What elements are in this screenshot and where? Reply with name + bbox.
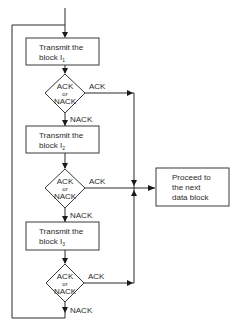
arrow-right-icon: [127, 90, 133, 96]
proceed-line1: Proceed to: [172, 173, 211, 182]
arrow-down-icon: [62, 68, 68, 74]
ack-label-1: ACK: [89, 82, 106, 91]
svg-text:block I3: block I3: [39, 237, 65, 247]
proceed-line2: the next: [172, 183, 201, 192]
nack-label-3: NACK: [70, 306, 93, 315]
arrow-down-icon: [62, 32, 68, 38]
ack-label-3: ACK: [88, 272, 105, 281]
decision-1-bottom: NACK: [54, 97, 77, 106]
decision-3-bottom: NACK: [54, 287, 77, 296]
decision-2-bottom: NACK: [54, 192, 77, 201]
transmit-block-3-line2: block I: [39, 237, 62, 246]
transmit-block-3-line1: Transmit the: [39, 227, 84, 236]
decision-2-top: ACK: [57, 177, 74, 186]
flowchart: Transmit the block I1 ACK or NACK ACK NA…: [0, 0, 239, 329]
arrow-down-icon: [62, 216, 68, 222]
transmit-block-2-line1: Transmit the: [39, 131, 84, 140]
arrow-down-icon: [131, 180, 137, 186]
arrow-down-icon: [62, 163, 68, 169]
svg-text:block I1: block I1: [39, 53, 65, 63]
transmit-block-2-subscript: 2: [62, 145, 65, 151]
transmit-block-3-subscript: 3: [62, 241, 65, 247]
ack-label-2: ACK: [89, 177, 106, 186]
transmit-block-2-line2: block I: [39, 141, 62, 150]
decision-1-top: ACK: [57, 82, 74, 91]
proceed-line3: data block: [172, 193, 209, 202]
transmit-block-1-line2: block I: [39, 53, 62, 62]
transmit-block-1-subscript: 1: [62, 57, 65, 63]
arrow-right-icon: [148, 185, 155, 191]
arrow-down-icon: [62, 120, 68, 126]
svg-text:block I2: block I2: [39, 141, 65, 151]
arrow-down-icon: [62, 258, 68, 264]
transmit-block-1-line1: Transmit the: [39, 43, 84, 52]
arrow-right-icon: [127, 280, 133, 286]
nack-label-1: NACK: [70, 115, 93, 124]
nack-label-2: NACK: [70, 211, 93, 220]
decision-3-top: ACK: [57, 272, 74, 281]
arrow-down-icon: [62, 307, 68, 313]
arrow-up-icon: [131, 190, 137, 196]
